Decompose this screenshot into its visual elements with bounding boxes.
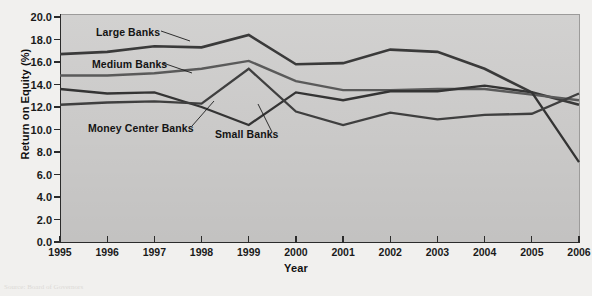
figure-caption: Source: Board of Governors <box>4 283 83 291</box>
leader-large-banks <box>161 31 190 41</box>
leader-medium-banks <box>163 63 192 73</box>
leader-small-banks <box>258 104 272 132</box>
leader-money-center-banks <box>192 101 214 126</box>
callout-leader-lines <box>0 0 592 296</box>
figure-root: and other the ROE valuecapital to the ea… <box>0 0 592 296</box>
